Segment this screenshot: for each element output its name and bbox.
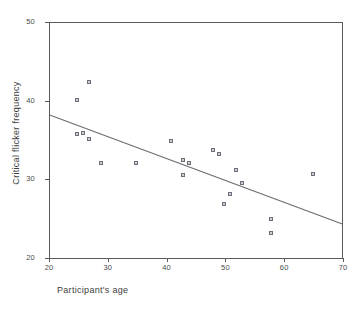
data-point xyxy=(81,131,85,135)
data-point xyxy=(87,80,91,84)
data-point xyxy=(269,217,273,221)
scatter-plot-figure: 20304050 203040506070 Participant's age … xyxy=(0,0,364,317)
data-point xyxy=(228,192,232,196)
data-point xyxy=(311,172,315,176)
data-point xyxy=(181,173,185,177)
x-tick-30 xyxy=(108,258,109,262)
x-tick-label-30: 30 xyxy=(96,263,120,272)
x-tick-60 xyxy=(284,258,285,262)
x-tick-label-20: 20 xyxy=(37,263,61,272)
plot-area: 20304050 203040506070 xyxy=(49,22,343,258)
x-tick-50 xyxy=(225,258,226,262)
data-point xyxy=(75,98,79,102)
y-tick-label-50: 50 xyxy=(11,17,35,26)
regression-line xyxy=(49,22,343,258)
data-point xyxy=(134,161,138,165)
data-point xyxy=(269,231,273,235)
x-axis-title: Participant's age xyxy=(57,285,128,295)
x-tick-20 xyxy=(49,258,50,262)
y-tick-label-20: 20 xyxy=(11,253,35,262)
x-tick-label-40: 40 xyxy=(155,263,179,272)
data-point xyxy=(99,161,103,165)
data-point xyxy=(181,158,185,162)
data-point xyxy=(217,152,221,156)
data-point xyxy=(187,161,191,165)
x-tick-70 xyxy=(343,258,344,262)
data-point xyxy=(87,137,91,141)
data-point xyxy=(234,168,238,172)
data-point xyxy=(75,132,79,136)
x-tick-label-50: 50 xyxy=(213,263,237,272)
x-tick-label-60: 60 xyxy=(272,263,296,272)
data-point xyxy=(169,139,173,143)
data-point xyxy=(222,202,226,206)
data-point xyxy=(240,181,244,185)
data-point xyxy=(211,148,215,152)
x-tick-40 xyxy=(167,258,168,262)
y-axis-title: Critical flicker frequency xyxy=(11,33,21,233)
x-tick-label-70: 70 xyxy=(331,263,355,272)
x-axis-line xyxy=(49,258,343,259)
